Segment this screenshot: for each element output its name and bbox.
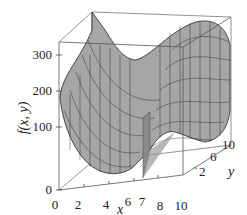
x-tick-6: 6 [125,194,132,209]
x-tick-4: 4 [103,197,110,212]
x-tick-10: 10 [175,198,188,213]
x-tick-0: 0 [52,197,59,212]
x-tick-8: 8 [157,198,164,213]
y-tick-2: 2 [199,164,206,179]
z-tick-100: 100 [33,119,53,134]
z-tick-200: 200 [33,83,53,98]
z-tick-0: 0 [46,182,53,197]
y-tick-10: 10 [222,137,235,152]
z-tick-300: 300 [33,47,53,62]
x-axis-label: x [116,202,124,215]
y-axis-label: y [226,164,235,179]
z-axis-label: f(x, y) [16,101,32,134]
y-tick-6: 6 [210,149,217,164]
x-axis-ticks [84,175,158,187]
x-tick-7: 7 [139,194,146,209]
x-tick-2: 2 [75,197,82,212]
surface-plot: 300 200 100 0 f(x, y) 0 2 4 6 7 8 10 x 2… [0,0,247,215]
